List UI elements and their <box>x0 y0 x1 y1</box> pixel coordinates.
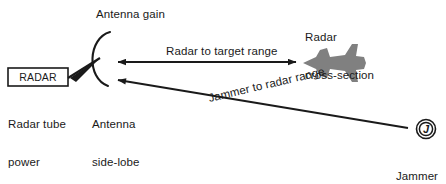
label-radar-box-text: RADAR <box>8 68 68 86</box>
label-antenna-sidelobe-gain-reduction: Antenna side-lobe gain reduction <box>92 93 166 184</box>
label-antenna-sidelobe-line2: side-lobe <box>92 156 166 169</box>
label-radar-tube-power-line2: power <box>8 156 66 169</box>
label-radar-tube-power-line1: Radar tube <box>8 118 66 131</box>
radar-jammer-diagram: Antenna gain Radar cross-section Radar t… <box>0 0 446 184</box>
label-jammer-erp: Jammer ERP <box>394 145 440 184</box>
label-jammer-erp-line1: Jammer <box>394 170 440 183</box>
label-jammer-marker-letter: J <box>418 121 434 137</box>
label-radar-cross-section-line1: Radar <box>305 31 374 44</box>
label-radar-to-target-range: Radar to target range <box>166 45 277 58</box>
label-radar-cross-section: Radar cross-section <box>305 6 374 107</box>
parabolic-antenna-icon <box>92 32 110 86</box>
label-radar-tube-power: Radar tube power <box>8 93 66 184</box>
antenna-feed-arrowhead <box>70 58 100 82</box>
label-antenna-gain: Antenna gain <box>96 8 165 21</box>
label-antenna-sidelobe-line1: Antenna <box>92 118 166 131</box>
